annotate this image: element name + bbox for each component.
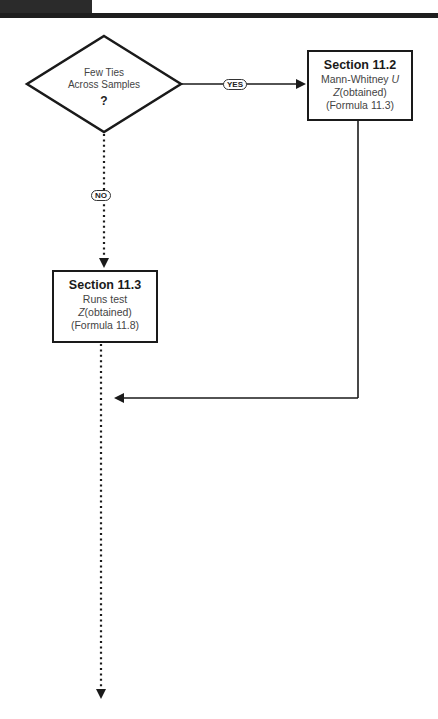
section-11-3-test: Runs test bbox=[54, 293, 156, 306]
arrow-down-icon bbox=[96, 689, 106, 699]
yes-label: YES bbox=[223, 79, 247, 90]
arrow-right-icon bbox=[296, 79, 306, 89]
test-name: Mann-Whitney bbox=[321, 73, 392, 85]
decision-line1: Few Ties bbox=[54, 67, 154, 79]
decision-line2: Across Samples bbox=[54, 79, 154, 91]
section-11-3-title: Section 11.3 bbox=[54, 278, 156, 293]
section-11-2-title: Section 11.2 bbox=[309, 58, 411, 73]
section-11-2-test: Mann-Whitney U bbox=[309, 73, 411, 86]
section-11-3-stat: Z(obtained) bbox=[54, 306, 156, 319]
section-11-3-box: Section 11.3 Runs test Z(obtained) (Form… bbox=[52, 270, 158, 343]
no-label: NO bbox=[91, 190, 111, 201]
section-11-2-formula: (Formula 11.3) bbox=[309, 99, 411, 112]
decision-text: Few Ties Across Samples ? bbox=[54, 67, 154, 107]
stat-label: (obtained) bbox=[85, 306, 132, 318]
section-11-2-stat: Z(obtained) bbox=[309, 86, 411, 99]
arrow-left-icon bbox=[114, 393, 124, 403]
test-symbol: U bbox=[392, 73, 400, 85]
section-11-2-box: Section 11.2 Mann-Whitney U Z(obtained) … bbox=[307, 50, 413, 121]
question-mark: ? bbox=[54, 95, 154, 107]
section-11-3-formula: (Formula 11.8) bbox=[54, 319, 156, 332]
arrow-down-icon bbox=[99, 258, 109, 268]
stat-label: (obtained) bbox=[340, 86, 387, 98]
